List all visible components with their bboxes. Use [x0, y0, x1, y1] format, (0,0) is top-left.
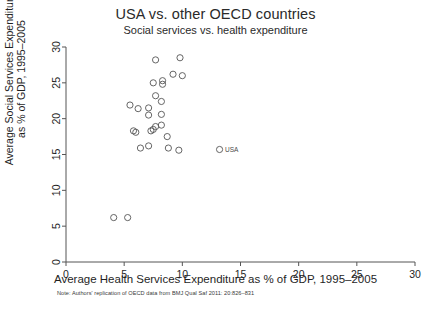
data-point — [125, 214, 131, 220]
chart-source-note: Note: Authors' replication of OECD data … — [57, 290, 254, 296]
data-point — [158, 122, 164, 128]
y-axis-tick-label: 30 — [50, 41, 62, 53]
data-point — [159, 81, 165, 87]
y-axis-label-line1: Average Social Services Expenditure — [3, 0, 15, 189]
scatter-plot-area: 051015202530051015202530USA — [0, 0, 431, 311]
data-point — [177, 55, 183, 61]
data-point — [152, 57, 158, 63]
x-axis-label: Average Health Services Expenditure as %… — [0, 273, 431, 285]
y-axis-tick-label: 10 — [50, 184, 62, 196]
data-point — [179, 73, 185, 79]
data-point — [152, 93, 158, 99]
data-point — [137, 145, 143, 151]
y-axis-tick-label: 20 — [50, 113, 62, 125]
data-point — [158, 98, 164, 104]
data-point — [170, 71, 176, 77]
data-point — [165, 145, 171, 151]
data-point — [176, 147, 182, 153]
y-axis-tick-label: 15 — [50, 149, 62, 161]
data-point — [146, 112, 152, 118]
data-point — [111, 214, 117, 220]
data-point-usa — [216, 146, 222, 152]
data-point — [127, 102, 133, 108]
data-point — [158, 111, 164, 117]
data-point-label: USA — [225, 146, 239, 153]
y-axis-tick-label: 0 — [50, 259, 62, 265]
chart-figure: USA vs. other OECD countries Social serv… — [0, 0, 431, 311]
y-axis-tick-label: 25 — [50, 77, 62, 89]
data-point — [146, 105, 152, 111]
data-point — [150, 80, 156, 86]
data-point — [164, 133, 170, 139]
y-axis-label-line2: as % of GDP, 1995–2005 — [15, 0, 27, 189]
data-point — [159, 78, 165, 84]
y-axis-label: Average Social Services Expenditure as %… — [3, 0, 33, 189]
data-point — [135, 106, 141, 112]
data-point — [146, 143, 152, 149]
y-axis-tick-label: 5 — [50, 223, 62, 229]
